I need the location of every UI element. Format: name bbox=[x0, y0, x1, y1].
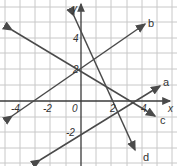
line-a-label: a bbox=[163, 76, 170, 88]
y-tick-4: 4 bbox=[73, 33, 79, 44]
line-b-label: b bbox=[148, 17, 154, 29]
line-c bbox=[12, 30, 155, 116]
line-d bbox=[74, 16, 135, 150]
y-tick-neg2: -2 bbox=[66, 127, 75, 138]
x-axis-label: x bbox=[167, 103, 174, 114]
x-tick-0: 0 bbox=[72, 103, 78, 114]
y-tick-2: 2 bbox=[72, 64, 79, 75]
x-tick-neg2: -2 bbox=[43, 103, 52, 114]
x-tick-4: 4 bbox=[141, 103, 147, 114]
x-tick-neg4: -4 bbox=[11, 103, 20, 114]
line-d-label: d bbox=[143, 151, 149, 163]
line-c-label: c bbox=[160, 114, 166, 126]
coordinate-graph: a b c d x y -4 -2 0 2 4 4 2 -2 bbox=[0, 0, 177, 166]
x-tick-2: 2 bbox=[109, 103, 116, 114]
y-axis-label: y bbox=[71, 3, 78, 14]
